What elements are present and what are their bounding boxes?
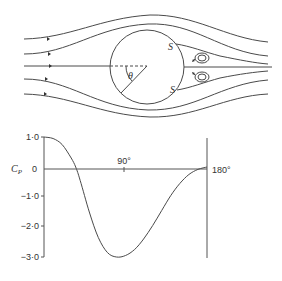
vortex-upper: [192, 53, 209, 63]
streamline-bottom-inner: [24, 79, 268, 110]
separation-label-lower: S: [170, 84, 175, 95]
arrow-icon: [47, 37, 50, 41]
arrow-icon: [48, 52, 51, 56]
streamline-top-inner: [24, 24, 268, 56]
flow-diagram: θ S S: [24, 15, 272, 117]
vortex-lower: [192, 72, 209, 82]
separation-streamline-lower: [177, 71, 268, 90]
x-tick-label-90: 90°: [117, 156, 131, 166]
cp-chart: 1·0 0 −1·0 −2·0 −3·0 CP 90° 180°: [11, 132, 231, 262]
arrow-icon: [45, 77, 48, 81]
y-tick-label: 1·0: [26, 132, 39, 142]
streamline-top-outer: [24, 15, 268, 42]
separation-label-upper: S: [168, 41, 173, 52]
figure-canvas: θ S S: [0, 0, 282, 281]
theta-label: θ: [128, 70, 133, 81]
y-axis-label: CP: [11, 163, 23, 176]
y-tick-label: 0: [32, 164, 37, 174]
y-tick-label: −2·0: [21, 221, 39, 231]
y-tick-label: −3·0: [21, 252, 39, 262]
y-tick-label: −1·0: [21, 191, 39, 201]
angle-radius: [121, 66, 147, 93]
x-tick-label-180: 180°: [212, 165, 231, 175]
arrow-icon: [49, 64, 52, 68]
streamline-bottom-outer: [24, 94, 268, 117]
